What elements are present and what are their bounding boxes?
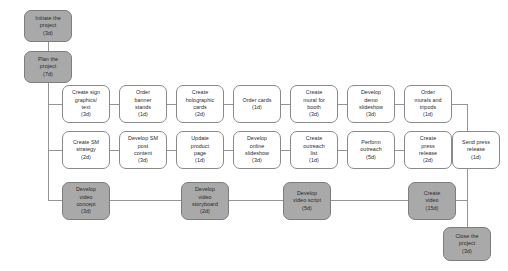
node-label: Create press release (2d) xyxy=(407,135,449,165)
node-label: Create SM strategy (2d) xyxy=(65,139,107,161)
node-develop-video-concept[interactable]: Develop video concept (3d) xyxy=(62,182,110,220)
node-label: Plan the project (7d) xyxy=(27,56,69,78)
node-create-holographic-cards[interactable]: Create holographic cards (2d) xyxy=(176,85,224,123)
node-develop-demo-slideshow[interactable]: Develop demo slideshow (3d) xyxy=(347,85,395,123)
node-create-press-release[interactable]: Create press release (2d) xyxy=(404,131,452,169)
node-plan-project[interactable]: Plan the project (7d) xyxy=(24,51,72,83)
node-label: Create holographic cards (2d) xyxy=(179,89,221,119)
node-label: Create mural for booth (3d) xyxy=(293,89,335,119)
node-label: Create sign graphics/ text (3d) xyxy=(65,89,107,119)
node-develop-online-slideshow[interactable]: Develop online slideshow (3d) xyxy=(233,131,281,169)
node-develop-video-storyboard[interactable]: Develop video storyboard (2d) xyxy=(181,182,229,220)
node-send-press-release[interactable]: Send press release (1d) xyxy=(452,131,500,169)
node-label: Order banner stands (1d) xyxy=(122,89,164,119)
node-update-product-page[interactable]: Update product page (1d) xyxy=(176,131,224,169)
flowchart-canvas: Initiate the project (3d) Plan the proje… xyxy=(0,0,508,271)
node-develop-sm-post-content[interactable]: Develop SM post content (3d) xyxy=(119,131,167,169)
node-create-sign-graphics[interactable]: Create sign graphics/ text (3d) xyxy=(62,85,110,123)
node-order-cards[interactable]: Order cards (1d) xyxy=(233,85,281,123)
node-label: Create outreach list (1d) xyxy=(293,135,335,165)
node-develop-video-script[interactable]: Develop video script (5d) xyxy=(283,182,331,220)
node-create-mural-for-booth[interactable]: Create mural for booth (3d) xyxy=(290,85,338,123)
node-create-sm-strategy[interactable]: Create SM strategy (2d) xyxy=(62,131,110,169)
node-label: Create video (15d) xyxy=(411,190,453,212)
node-initiate-project[interactable]: Initiate the project (3d) xyxy=(24,10,72,42)
node-label: Close the project (3d) xyxy=(446,233,488,255)
node-label: Send press release (1d) xyxy=(455,139,497,161)
node-label: Develop video storyboard (2d) xyxy=(184,186,226,216)
node-label: Perform outreach (5d) xyxy=(350,139,392,161)
node-order-murals-and-tripods[interactable]: Order murals and tripods (1d) xyxy=(404,85,452,123)
node-order-banner-stands[interactable]: Order banner stands (1d) xyxy=(119,85,167,123)
node-label: Update product page (1d) xyxy=(179,135,221,165)
node-label: Initiate the project (3d) xyxy=(27,15,69,37)
node-close-project[interactable]: Close the project (3d) xyxy=(443,227,491,261)
node-create-outreach-list[interactable]: Create outreach list (1d) xyxy=(290,131,338,169)
node-label: Order cards (1d) xyxy=(236,97,278,112)
node-label: Develop video script (5d) xyxy=(286,190,328,212)
node-perform-outreach[interactable]: Perform outreach (5d) xyxy=(347,131,395,169)
node-label: Develop demo slideshow (3d) xyxy=(350,89,392,119)
node-create-video[interactable]: Create video (15d) xyxy=(408,182,456,220)
node-label: Develop SM post content (3d) xyxy=(122,135,164,165)
node-label: Develop video concept (3d) xyxy=(65,186,107,216)
node-label: Develop online slideshow (3d) xyxy=(236,135,278,165)
node-label: Order murals and tripods (1d) xyxy=(407,89,449,119)
